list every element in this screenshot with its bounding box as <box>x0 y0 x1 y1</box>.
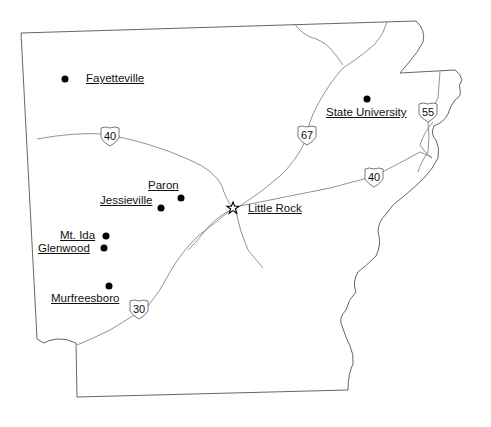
city-dot-mt-ida <box>103 233 110 240</box>
svg-text:67: 67 <box>301 129 313 141</box>
road-south <box>236 212 263 268</box>
city-label-paron: Paron <box>148 180 179 192</box>
map-canvas: 40 67 55 40 30 <box>0 0 491 427</box>
city-dot-glenwood <box>101 245 108 252</box>
highway-40-east <box>240 152 432 206</box>
city-label-glenwood: Glenwood <box>38 243 90 255</box>
svg-text:40: 40 <box>368 171 380 183</box>
city-label-murfreesboro: Murfreesboro <box>51 293 119 305</box>
arkansas-map: 40 67 55 40 30 Fayetteville State Univer <box>0 0 491 427</box>
highway-shield-67: 67 <box>298 126 316 145</box>
svg-text:40: 40 <box>104 130 116 142</box>
city-label-fayetteville: Fayetteville <box>86 73 144 85</box>
highway-67 <box>240 68 343 206</box>
svg-text:55: 55 <box>422 106 434 118</box>
highway-shield-55: 55 <box>419 103 437 122</box>
city-dot-murfreesboro <box>106 283 113 290</box>
region-line <box>343 22 387 68</box>
city-dot-state-university <box>364 96 371 103</box>
capital-label-little-rock: Little Rock <box>248 203 302 215</box>
highway-shield-40-east: 40 <box>365 168 383 187</box>
city-label-jessieville: Jessieville <box>100 195 152 207</box>
highway-shield-40-west: 40 <box>101 127 119 146</box>
city-dot-jessieville <box>158 205 165 212</box>
city-dot-paron <box>178 195 185 202</box>
svg-text:30: 30 <box>133 303 145 315</box>
city-label-mt-ida: Mt. Ida <box>60 230 95 242</box>
city-label-state-university: State University <box>326 107 407 119</box>
highway-30 <box>77 208 233 345</box>
region-line <box>295 24 343 65</box>
city-dot-fayetteville <box>62 76 69 83</box>
